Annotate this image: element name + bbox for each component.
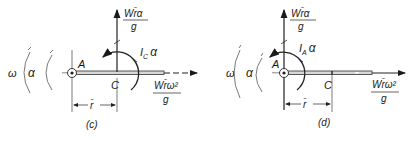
figure-caption: (d) (318, 117, 330, 128)
figure-c: ω α A Wr̄α g C ICα Wr̄ω² g (8, 7, 197, 130)
figure-d: ω α Wr̄α g IAα A C Wr̄ω² g (226, 7, 405, 128)
omega-label: ω (8, 67, 17, 79)
omega-label: ω (226, 67, 235, 79)
horizontal-force-numerator: Wr̄ω² (372, 78, 397, 90)
omega-arc (234, 50, 240, 98)
alpha-label: α (246, 66, 254, 80)
omega-arc-tick (28, 47, 31, 50)
vertical-force-numerator: Wr̄α (291, 7, 310, 19)
horizontal-force-denominator: g (381, 93, 387, 104)
alpha-label: α (28, 66, 36, 80)
pivot-label: A (77, 58, 85, 70)
horizontal-force-numerator: Wr̄ω² (154, 79, 179, 91)
center-label: C (324, 79, 332, 91)
vertical-force-denominator: g (298, 21, 304, 32)
moment-label: IAα (299, 41, 317, 56)
vertical-force-denominator: g (131, 21, 137, 32)
center-label: C (111, 79, 119, 91)
figure-caption: (c) (86, 119, 98, 130)
diagram-canvas: ω α A Wr̄α g C ICα Wr̄ω² g (0, 0, 420, 141)
horizontal-force-denominator: g (163, 94, 169, 105)
alpha-arc (46, 55, 52, 90)
vertical-force-numerator: Wr̄α (124, 7, 143, 19)
moment-label: ICα (140, 45, 158, 60)
alpha-arc (256, 58, 262, 92)
bar (72, 71, 164, 75)
pivot-label: A (271, 58, 279, 70)
alpha-arc-tick (50, 50, 53, 53)
